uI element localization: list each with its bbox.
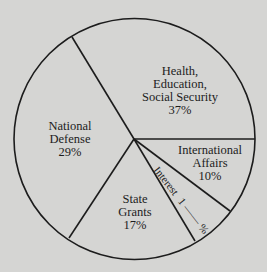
label-defense: National Defense 29%	[40, 120, 100, 159]
label-health: Health, Education, Social Security 37%	[140, 65, 220, 117]
label-intl: International Affairs 10%	[175, 144, 245, 183]
label-state: State Grants 17%	[110, 193, 160, 232]
